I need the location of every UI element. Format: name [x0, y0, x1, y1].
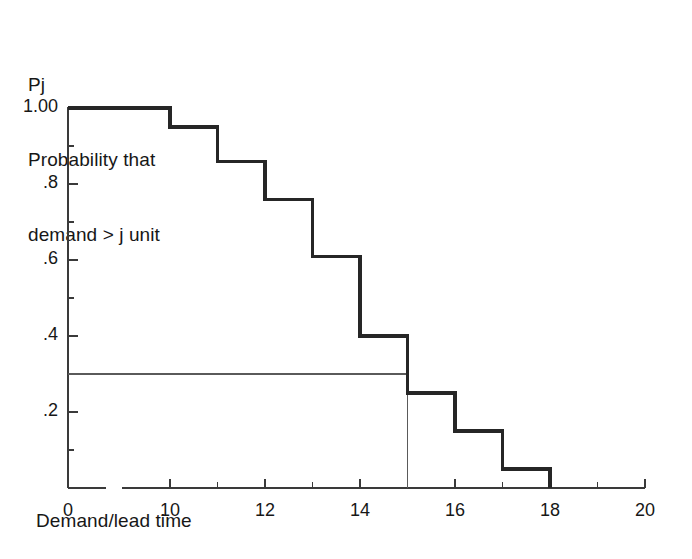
y-axis-tick-label: .4 — [43, 324, 58, 345]
x-axis-tick-label: 0 — [38, 500, 98, 521]
y-axis-tick-label: 1.00 — [23, 96, 58, 117]
y-axis-tick-label: .6 — [43, 248, 58, 269]
x-axis-tick-label: 18 — [520, 500, 580, 521]
y-axis-tick-label: .2 — [43, 400, 58, 421]
x-axis-tick-label: 20 — [615, 500, 675, 521]
chart-container: Pj Probability that demand > j unit Dema… — [0, 0, 692, 559]
x-axis-tick-label: 10 — [140, 500, 200, 521]
step-function-curve — [68, 108, 550, 488]
y-axis-tick-label: .8 — [43, 172, 58, 193]
x-axis-tick-label: 14 — [330, 500, 390, 521]
chart-plot-area — [0, 0, 692, 559]
x-axis-tick-label: 12 — [235, 500, 295, 521]
x-axis-tick-label: 16 — [425, 500, 485, 521]
